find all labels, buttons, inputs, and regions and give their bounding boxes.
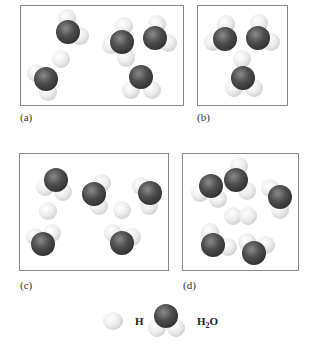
hydrogen-atom-icon <box>39 202 57 220</box>
water-oxygen-icon <box>231 66 255 90</box>
legend-water-oxygen-icon <box>154 304 178 328</box>
water-oxygen-icon <box>56 20 80 44</box>
panel-label-b: (b) <box>197 111 210 123</box>
legend-h2o-label: H2O <box>197 315 218 330</box>
water-oxygen-icon <box>213 27 237 51</box>
hydrogen-atom-icon <box>239 207 257 225</box>
legend-h2o-h: H <box>197 315 206 327</box>
water-oxygen-icon <box>129 65 153 89</box>
legend-h-label: H <box>135 315 144 327</box>
legend-h2o-o: O <box>210 315 219 327</box>
panel-label-d: (d) <box>183 279 196 291</box>
water-oxygen-icon <box>224 168 248 192</box>
panel-label-c: (c) <box>20 279 32 291</box>
water-oxygen-icon <box>201 233 225 257</box>
hydrogen-atom-icon <box>52 50 70 68</box>
water-oxygen-icon <box>110 231 134 255</box>
hydrogen-atom-icon <box>113 201 131 219</box>
water-oxygen-icon <box>34 67 58 91</box>
water-oxygen-icon <box>110 30 134 54</box>
water-oxygen-icon <box>44 168 68 192</box>
water-oxygen-icon <box>246 26 270 50</box>
water-oxygen-icon <box>143 26 167 50</box>
water-oxygen-icon <box>242 241 266 265</box>
panel-label-a: (a) <box>20 111 32 123</box>
water-oxygen-icon <box>31 232 55 256</box>
legend-hydrogen-icon <box>103 312 123 330</box>
water-oxygen-icon <box>82 182 106 206</box>
water-oxygen-icon <box>199 174 223 198</box>
water-oxygen-icon <box>268 185 292 209</box>
water-oxygen-icon <box>138 181 162 205</box>
